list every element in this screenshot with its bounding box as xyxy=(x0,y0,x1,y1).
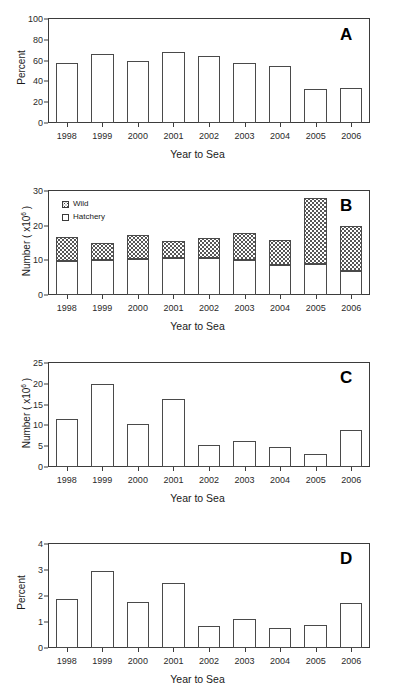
bar-segment-wild-2002 xyxy=(198,238,220,257)
bar-1998 xyxy=(56,419,78,467)
x-tick-mark xyxy=(245,648,246,652)
bar-2000 xyxy=(127,235,149,295)
panel-a-y-axis-label: Percent xyxy=(16,28,27,108)
x-tick-mark xyxy=(245,467,246,471)
x-tick-mark xyxy=(245,123,246,127)
panel-a: A 020406080100 Percent Year to Sea 19981… xyxy=(0,0,395,175)
panel-c-x-tick-1998: 1998 xyxy=(57,475,77,485)
panel-c-x-tick-2000: 2000 xyxy=(128,475,148,485)
y-tick-mark xyxy=(44,191,48,192)
x-tick-mark xyxy=(173,295,174,299)
bar-2000 xyxy=(127,424,149,467)
panel-c-y-axis-label-exp: 6 xyxy=(20,384,27,388)
panel-a-x-tick-2003: 2003 xyxy=(235,131,255,141)
panel-a-x-tick-2005: 2005 xyxy=(306,131,326,141)
bar-2004 xyxy=(269,447,291,467)
panel-d-x-tick-2003: 2003 xyxy=(235,656,255,666)
bar-2000 xyxy=(127,602,149,648)
panel-d-x-tick-1999: 1999 xyxy=(92,656,112,666)
bar-1998 xyxy=(56,599,78,648)
panel-a-x-tick-2001: 2001 xyxy=(163,131,183,141)
x-tick-mark xyxy=(209,123,210,127)
bar-segment-wild-1999 xyxy=(91,243,113,259)
bar-2006 xyxy=(340,226,362,295)
panel-a-x-tick-2004: 2004 xyxy=(270,131,290,141)
bar-2004 xyxy=(269,240,291,295)
y-tick-mark xyxy=(44,622,48,623)
panel-c-x-tick-2005: 2005 xyxy=(306,475,326,485)
y-tick-mark xyxy=(44,404,48,405)
y-tick-mark xyxy=(44,123,48,124)
y-tick-mark xyxy=(44,446,48,447)
panel-c-x-tick-2002: 2002 xyxy=(199,475,219,485)
y-tick-mark xyxy=(44,383,48,384)
panel-b-x-tick-2003: 2003 xyxy=(235,303,255,313)
bar-2000 xyxy=(127,61,149,123)
bar-2001 xyxy=(162,241,184,295)
panel-a-x-axis-label: Year to Sea xyxy=(0,148,395,160)
x-tick-mark xyxy=(67,467,68,471)
x-tick-mark xyxy=(173,123,174,127)
panel-d-y-axis-label: Percent xyxy=(16,553,27,633)
bar-1999 xyxy=(91,243,113,295)
panel-b-x-tick-1998: 1998 xyxy=(57,303,77,313)
panel-c: C 0510152025 Number ( x106 ) Year to Sea… xyxy=(0,350,395,525)
bar-2003 xyxy=(233,63,255,123)
y-tick-mark xyxy=(44,295,48,296)
bar-2003 xyxy=(233,619,255,648)
bar-segment-hatchery-2003 xyxy=(233,260,255,295)
bar-segment-hatchery-1999 xyxy=(91,260,113,295)
panel-d-y-axis-label-text: Percent xyxy=(16,575,27,609)
panel-d-x-tick-2001: 2001 xyxy=(163,656,183,666)
panel-c-x-tick-2004: 2004 xyxy=(270,475,290,485)
bar-2002 xyxy=(198,238,220,295)
bar-segment-hatchery-2005 xyxy=(304,264,326,295)
bar-2004 xyxy=(269,66,291,123)
bar-2001 xyxy=(162,583,184,648)
bar-1998 xyxy=(56,237,78,295)
panel-b-y-axis-label-tail: ) xyxy=(21,206,32,212)
x-tick-mark xyxy=(280,467,281,471)
x-tick-mark xyxy=(138,467,139,471)
bar-2001 xyxy=(162,52,184,123)
x-tick-mark xyxy=(102,123,103,127)
panel-b-x-tick-2002: 2002 xyxy=(199,303,219,313)
bar-segment-wild-1998 xyxy=(56,237,78,260)
panel-c-bars xyxy=(49,363,369,467)
panel-b-x-tick-1999: 1999 xyxy=(92,303,112,313)
panel-b-x-tick-2006: 2006 xyxy=(341,303,361,313)
panel-a-y-axis-label-text: Percent xyxy=(16,50,27,84)
x-tick-mark xyxy=(138,123,139,127)
bar-segment-hatchery-2002 xyxy=(198,258,220,295)
x-tick-mark xyxy=(67,123,68,127)
bar-2002 xyxy=(198,626,220,648)
bar-segment-wild-2005 xyxy=(304,198,326,264)
bar-segment-wild-2001 xyxy=(162,241,184,258)
bar-2003 xyxy=(233,441,255,467)
y-tick-mark xyxy=(44,544,48,545)
bar-segment-hatchery-2000 xyxy=(127,259,149,295)
x-tick-mark xyxy=(280,648,281,652)
bar-2002 xyxy=(198,56,220,123)
panel-c-y-axis-label-tail: ) xyxy=(21,378,32,384)
panel-a-x-tick-1999: 1999 xyxy=(92,131,112,141)
panel-b-x-tick-2001: 2001 xyxy=(163,303,183,313)
bar-2005 xyxy=(304,198,326,295)
bar-1999 xyxy=(91,54,113,123)
panel-c-x-tick-1999: 1999 xyxy=(92,475,112,485)
panel-d-x-axis-label: Year to Sea xyxy=(0,673,395,685)
y-tick-mark xyxy=(44,19,48,20)
y-tick-mark xyxy=(44,225,48,226)
panel-b-x-axis-label: Year to Sea xyxy=(0,320,395,332)
x-tick-mark xyxy=(351,648,352,652)
y-tick-mark xyxy=(44,648,48,649)
panel-d-x-tick-2000: 2000 xyxy=(128,656,148,666)
bar-2001 xyxy=(162,399,184,467)
panel-d-x-tick-2005: 2005 xyxy=(306,656,326,666)
panel-c-x-tick-2001: 2001 xyxy=(163,475,183,485)
panel-b-x-tick-2000: 2000 xyxy=(128,303,148,313)
bar-segment-hatchery-2001 xyxy=(162,258,184,295)
y-tick-mark xyxy=(44,570,48,571)
y-tick-mark xyxy=(44,467,48,468)
x-tick-mark xyxy=(173,648,174,652)
